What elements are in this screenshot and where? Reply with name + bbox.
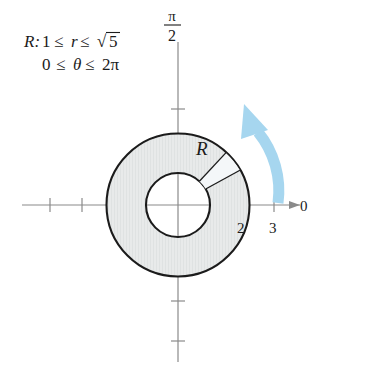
radicand-value: 5: [109, 32, 118, 51]
pi-over-2-denominator: 2: [168, 27, 176, 44]
x-tick-label-3: 3: [269, 220, 277, 236]
region-label-lower-bound: 1: [42, 32, 51, 51]
annulus-fill: [100, 127, 257, 284]
region-label-rel2: ≤: [80, 32, 89, 51]
angle-label-rel1: ≤: [56, 55, 65, 74]
polar-annulus-diagram: R: 1 ≤ r ≤ √ 5 0 ≤ θ ≤ 2π R 0 2 3 π 2: [0, 0, 365, 374]
sweep-arrow-arc: [258, 132, 279, 203]
radical-sign: √: [97, 32, 107, 51]
polar-axis-arrowhead: [289, 201, 300, 209]
region-label-prefix: R:: [23, 32, 40, 51]
pi-over-2-numerator: π: [168, 8, 176, 24]
vertical-axis-label: π 2: [164, 8, 181, 44]
region-label-rel1: ≤: [54, 32, 63, 51]
region-label-radial-var: r: [71, 32, 78, 51]
angle-label-theta: θ: [73, 55, 81, 74]
region-definition-label: R: 1 ≤ r ≤ √ 5 0 ≤ θ ≤ 2π: [23, 32, 120, 74]
annulus-region: [100, 127, 257, 284]
angle-label-upper-bound: 2π: [102, 55, 120, 74]
region-letter-label: R: [195, 138, 208, 159]
angle-label-rel2: ≤: [85, 55, 94, 74]
x-tick-label-2: 2: [237, 220, 245, 236]
angle-label-lower-bound: 0: [42, 55, 51, 74]
polar-axis-label: 0: [300, 198, 308, 214]
figure-root: R: 1 ≤ r ≤ √ 5 0 ≤ θ ≤ 2π R 0 2 3 π 2: [0, 0, 365, 374]
